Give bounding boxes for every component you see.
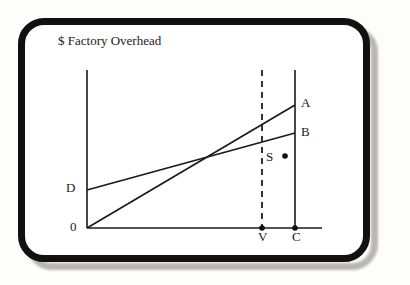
label-line-b: B bbox=[301, 125, 310, 140]
series-line-a bbox=[87, 105, 295, 228]
figure-screenshot: $ Factory Overhead D 0 A B S V C bbox=[0, 0, 410, 285]
chart-title: $ Factory Overhead bbox=[58, 34, 161, 49]
label-tick-v: V bbox=[258, 230, 267, 245]
label-line-a: A bbox=[301, 96, 310, 111]
label-origin: 0 bbox=[70, 220, 77, 235]
label-d: D bbox=[66, 181, 75, 196]
chart-plot-area: $ Factory Overhead D 0 A B S V C bbox=[18, 18, 370, 262]
label-point-s: S bbox=[266, 150, 273, 165]
data-point-s bbox=[282, 153, 288, 159]
label-tick-c: C bbox=[292, 230, 301, 245]
series-line-b bbox=[87, 133, 295, 190]
